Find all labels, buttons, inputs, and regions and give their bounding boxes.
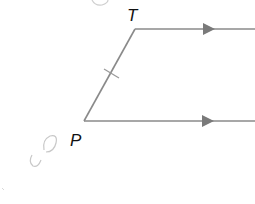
pencil-scribble-top (92, 0, 108, 5)
pencil-scribble-left (30, 136, 56, 167)
parallel-arrow-icon (203, 23, 215, 35)
pencil-dot (2, 188, 4, 190)
geometry-diagram: T P (0, 0, 255, 204)
parallel-arrow-icon (202, 115, 214, 127)
segment-pt (84, 29, 135, 121)
label-p: P (70, 131, 82, 150)
label-t: T (127, 6, 139, 25)
